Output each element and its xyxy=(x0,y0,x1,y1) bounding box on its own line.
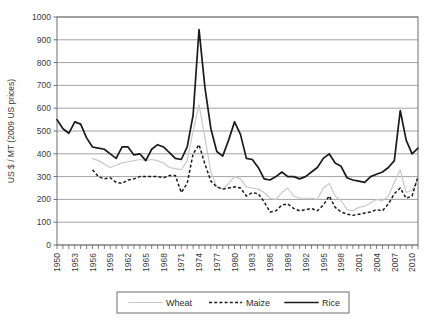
x-tick-label: 1965 xyxy=(141,253,151,272)
x-tick-label: 1983 xyxy=(247,253,257,272)
x-tick-label: 2007 xyxy=(390,253,400,272)
y-tick-label: 400 xyxy=(37,149,51,159)
x-tick-label: 1995 xyxy=(319,253,329,272)
x-tick-label: 1959 xyxy=(105,253,115,272)
legend-label-rice: Rice xyxy=(322,298,340,308)
y-tick-label: 700 xyxy=(37,80,51,90)
x-tick-label: 1992 xyxy=(301,253,311,272)
x-tick-label: 1980 xyxy=(230,253,240,272)
y-tick-label: 0 xyxy=(46,240,51,250)
x-tick-label: 1950 xyxy=(52,253,62,272)
x-tick-label: 1953 xyxy=(70,253,80,272)
x-tick-label: 2004 xyxy=(372,253,382,272)
x-tick-label: 1977 xyxy=(212,253,222,272)
x-tick-label: 2010 xyxy=(407,253,417,272)
x-tick-label: 1986 xyxy=(265,253,275,272)
y-tick-label: 300 xyxy=(37,172,51,182)
y-axis-title: US $ / MT (2009 US prices) xyxy=(6,79,16,183)
x-tick-label: 1971 xyxy=(176,253,186,272)
x-tick-label: 1974 xyxy=(194,253,204,272)
y-tick-label: 500 xyxy=(37,126,51,136)
y-tick-label: 200 xyxy=(37,194,51,204)
x-tick-label: 1962 xyxy=(123,253,133,272)
y-tick-label: 800 xyxy=(37,58,51,68)
y-tick-label: 600 xyxy=(37,103,51,113)
chart-legend: WheatMaizeRice xyxy=(117,292,349,313)
x-tick-label: 1998 xyxy=(336,253,346,272)
legend-label-wheat: Wheat xyxy=(166,298,193,308)
x-tick-label: 1989 xyxy=(283,253,293,272)
x-tick-label: 1956 xyxy=(88,253,98,272)
y-tick-label: 100 xyxy=(37,217,51,227)
commodity-price-line-chart: 01002003004005006007008009001000 1950195… xyxy=(0,0,438,321)
x-tick-label: 1968 xyxy=(159,253,169,272)
x-axis-tick-labels: 1950195319561959196219651968197119741977… xyxy=(52,253,417,272)
y-tick-label: 1000 xyxy=(32,12,51,22)
legend-label-maize: Maize xyxy=(246,298,270,308)
x-tick-label: 2001 xyxy=(354,253,364,272)
price-chart-container: 01002003004005006007008009001000 1950195… xyxy=(0,0,438,321)
y-tick-label: 900 xyxy=(37,35,51,45)
